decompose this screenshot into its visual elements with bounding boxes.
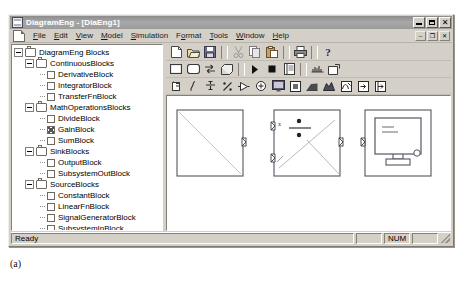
window-maximize-button[interactable] <box>426 17 438 28</box>
tree-item-label: DerivativeBlock <box>58 70 113 79</box>
subsystem-block-icon[interactable] <box>372 79 388 94</box>
mdi-document-icon[interactable] <box>13 30 25 42</box>
tree-item-diagrameng blocks[interactable]: DiagramEng Blocks <box>14 47 162 58</box>
gain-block-icon[interactable] <box>236 79 252 94</box>
menu-format[interactable]: Format <box>172 30 205 42</box>
block-icon <box>47 192 55 200</box>
connection-icon[interactable] <box>202 62 218 77</box>
cut-icon[interactable] <box>230 45 246 60</box>
resize-grip-icon[interactable] <box>440 233 451 244</box>
window-minimize-button[interactable] <box>413 17 425 28</box>
menu-tools[interactable]: Tools <box>205 30 232 42</box>
client-area: DiagramEng BlocksContinuousBlocksDerivat… <box>11 44 451 231</box>
block-icon <box>47 71 55 79</box>
window-close-button[interactable]: ✕ <box>439 17 451 28</box>
menu-model[interactable]: Model <box>97 30 127 42</box>
block-icon <box>47 203 55 211</box>
collapse-minus-icon[interactable] <box>14 48 23 57</box>
tree-item-subsystemoutblock[interactable]: SubsystemOutBlock <box>14 168 162 179</box>
tree-item-subsysteminblock[interactable]: SubsystemInBlock <box>14 223 162 231</box>
tree-item-label: SourceBlocks <box>50 180 99 189</box>
tree-item-sinkblocks[interactable]: SinkBlocks <box>14 146 162 157</box>
tree-item-label: ContinuousBlocks <box>50 59 114 68</box>
svg-text:?: ? <box>325 46 331 58</box>
status-bar: Ready NUM <box>11 232 451 244</box>
collapse-minus-icon[interactable] <box>25 103 34 112</box>
rounded-block-icon[interactable] <box>185 62 201 77</box>
block-icon <box>47 82 55 90</box>
app-document-icon <box>12 17 23 28</box>
collapse-minus-icon[interactable] <box>25 147 34 156</box>
menu-help[interactable]: Help <box>269 30 293 42</box>
tree-connector <box>36 169 45 178</box>
title-bar: DiagramEng - [DiaEng1] ✕ <box>10 16 452 29</box>
tree-connector <box>36 125 45 134</box>
tree-item-continuousblocks[interactable]: ContinuousBlocks <box>14 58 162 69</box>
tree-item-integratorblock[interactable]: IntegratorBlock <box>14 80 162 91</box>
tree-connector <box>36 81 45 90</box>
block-icon <box>47 214 55 222</box>
tree-item-constantblock[interactable]: ConstantBlock <box>14 190 162 201</box>
sim-params-icon[interactable] <box>281 62 297 77</box>
divide-block-icon[interactable] <box>219 79 235 94</box>
tree-item-divideblock[interactable]: DivideBlock <box>14 113 162 124</box>
menu-simulation[interactable]: Simulation <box>127 30 172 42</box>
mdi-minimize-button[interactable]: – <box>415 31 426 41</box>
close-icon: ✕ <box>440 18 450 27</box>
status-pane-num: NUM <box>384 233 410 244</box>
constant-block-icon[interactable] <box>304 79 320 94</box>
subsystem-out-block-icon[interactable] <box>287 79 303 94</box>
menu-edit[interactable]: Edit <box>50 30 72 42</box>
sum-block-icon[interactable] <box>253 79 269 94</box>
tree-item-mathoperationsblocks[interactable]: MathOperationsBlocks <box>14 102 162 113</box>
run-icon[interactable] <box>247 62 263 77</box>
collapse-minus-icon[interactable] <box>25 180 34 189</box>
toolbar-separator <box>311 46 318 59</box>
integrator-block-icon[interactable] <box>185 79 201 94</box>
new-icon[interactable] <box>168 45 184 60</box>
save-icon[interactable] <box>202 45 218 60</box>
tree-item-sumblock[interactable]: SumBlock <box>14 135 162 146</box>
copy-icon[interactable] <box>247 45 263 60</box>
linearfn-block-icon[interactable] <box>321 79 337 94</box>
zoom-box-icon[interactable] <box>326 62 342 77</box>
block-tree-panel[interactable]: DiagramEng BlocksContinuousBlocksDerivat… <box>11 44 163 231</box>
tree-item-label: SumBlock <box>58 136 94 145</box>
signalgen-block-icon[interactable] <box>338 79 354 94</box>
collapse-minus-icon[interactable] <box>25 59 34 68</box>
about-icon[interactable]: ? <box>320 45 336 60</box>
menu-file[interactable]: File <box>29 30 50 42</box>
stop-icon[interactable] <box>264 62 280 77</box>
tree-connector <box>36 158 45 167</box>
subsystem-icon[interactable] <box>219 62 235 77</box>
tree-item-signalgeneratorblock[interactable]: SignalGeneratorBlock <box>14 212 162 223</box>
blocks-toolbar <box>166 78 451 95</box>
subsystem-in-block-icon[interactable] <box>355 79 371 94</box>
tree-item-derivativeblock[interactable]: DerivativeBlock <box>14 69 162 80</box>
mdi-close-button[interactable]: ✕ <box>439 31 450 41</box>
tree-item-gainblock[interactable]: GainBlock <box>14 124 162 135</box>
tree-item-outputblock[interactable]: OutputBlock <box>14 157 162 168</box>
paste-icon[interactable] <box>264 45 280 60</box>
block-icon[interactable] <box>168 62 184 77</box>
menu-window[interactable]: Window <box>232 30 268 42</box>
derivative-block-icon[interactable] <box>168 79 184 94</box>
tree-item-transferfnblock[interactable]: TransferFnBlock <box>14 91 162 102</box>
output-block-icon[interactable] <box>270 79 286 94</box>
block-icon <box>47 115 55 123</box>
open-icon[interactable] <box>185 45 201 60</box>
transferfn-block-icon[interactable] <box>202 79 218 94</box>
mdi-restore-button[interactable]: ❒ <box>427 31 438 41</box>
menu-view[interactable]: View <box>72 30 97 42</box>
diagram-canvas[interactable]: x <box>166 95 451 231</box>
tree-item-label: ConstantBlock <box>58 191 110 200</box>
document-pane: ? <box>166 44 451 231</box>
tree-connector <box>36 224 45 231</box>
standard-toolbar: ? <box>166 44 451 61</box>
window-title: DiagramEng - [DiaEng1] <box>26 18 120 27</box>
signal-icon[interactable] <box>309 62 325 77</box>
tree-item-linearfnblock[interactable]: LinearFnBlock <box>14 201 162 212</box>
print-icon[interactable] <box>292 45 308 60</box>
tree-item-label: SubsystemInBlock <box>58 224 124 231</box>
tree-item-sourceblocks[interactable]: SourceBlocks <box>14 179 162 190</box>
